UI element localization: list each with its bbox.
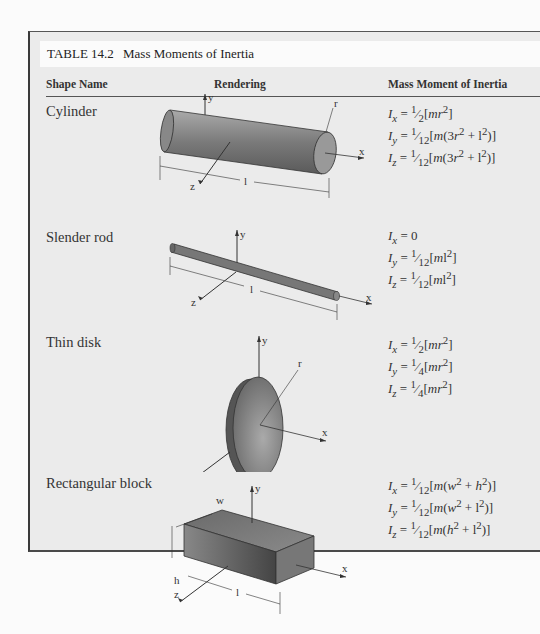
svg-text:r: r [298, 357, 302, 369]
svg-text:x: x [366, 291, 372, 303]
svg-text:w: w [216, 494, 224, 506]
rectangular-block-figure: y x z w h l [150, 452, 390, 622]
shape-name: Slender rod [46, 229, 113, 246]
svg-text:y: y [262, 334, 268, 346]
svg-text:h: h [174, 574, 180, 586]
table-frame: TABLE 14.2Mass Moments of Inertia Shape … [28, 31, 540, 552]
svg-text:x: x [322, 426, 328, 438]
svg-text:y: y [208, 92, 214, 103]
inertia-formulas: Ix = 1⁄12[m(w2 + h2)] Iy = 1⁄12[m(w2 + l… [388, 475, 496, 541]
formula-iz: Iz = 1⁄12[m(h2 + l2)] [388, 519, 496, 541]
inertia-formulas: Ix = 1⁄2[mr2] Iy = 1⁄4[mr2] Iz = 1⁄4[mr2… [388, 334, 453, 400]
svg-text:l: l [244, 175, 247, 187]
formula-ix: Ix = 1⁄2[mr2] [388, 334, 453, 356]
svg-text:l: l [250, 283, 253, 295]
svg-text:y: y [255, 482, 261, 494]
thin-disk-figure: y r x [160, 322, 390, 472]
col-header-shape: Shape Name [46, 78, 108, 90]
formula-iz: Iz = 1⁄12[m(3r2 + l2)] [388, 147, 496, 169]
svg-text:x: x [342, 562, 348, 574]
svg-text:z: z [174, 588, 179, 600]
svg-text:l: l [236, 586, 239, 598]
formula-ix: Ix = 1⁄2[mr2] [388, 103, 496, 125]
svg-text:r: r [334, 97, 338, 109]
cylinder-figure: y x r z l [150, 92, 380, 202]
col-header-inertia: Mass Moment of Inertia [388, 78, 507, 90]
col-header-rendering: Rendering [214, 78, 266, 90]
table-number: TABLE 14.2 [47, 41, 123, 67]
table-title: Mass Moments of Inertia [123, 46, 254, 61]
slender-rod-figure: y x z l [160, 220, 400, 320]
formula-iy: Iy = 1⁄12[m(w2 + l2)] [388, 497, 496, 519]
inertia-formulas: Ix = 1⁄2[mr2] Iy = 1⁄12[m(3r2 + l2)] Iz … [388, 103, 496, 169]
formula-iy: Iy = 1⁄4[mr2] [388, 356, 453, 378]
formula-iz: Iz = 1⁄4[mr2] [388, 378, 453, 400]
svg-text:z: z [191, 296, 196, 308]
formula-ix: Ix = 1⁄12[m(w2 + h2)] [388, 475, 496, 497]
svg-text:z: z [190, 180, 195, 192]
shape-name: Cylinder [46, 103, 97, 120]
shape-name: Rectangular block [46, 475, 152, 492]
formula-iy: Iy = 1⁄12[m(3r2 + l2)] [388, 125, 496, 147]
svg-text:x: x [359, 145, 365, 157]
svg-text:y: y [240, 228, 246, 240]
table-caption: TABLE 14.2Mass Moments of Inertia [40, 41, 540, 67]
shape-name: Thin disk [46, 334, 101, 351]
